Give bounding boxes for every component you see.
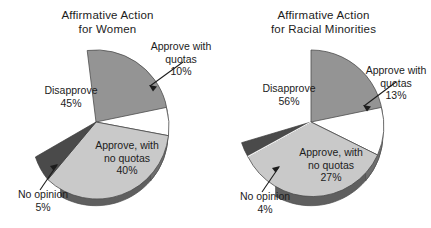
callout-approve-with-quotas-women: Approve with quotas 10% <box>140 40 222 78</box>
callout-no-opinion-women: No opinion 5% <box>2 188 84 213</box>
figure-two-pie-charts: Affirmative Action for Women <box>0 0 431 228</box>
callout-no-opinion-racial-minorities: No opinion 4% <box>224 190 306 215</box>
chart-panel-racial-minorities: Affirmative Action for Racial Minorities <box>216 0 431 228</box>
callout-approve-with-quotas-racial-minorities: Approve with quotas 13% <box>355 64 431 102</box>
chart-panel-women: Affirmative Action for Women <box>0 0 215 228</box>
